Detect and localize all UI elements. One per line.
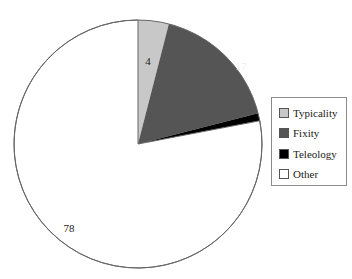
legend-item-fixity: Fixity xyxy=(279,126,319,140)
legend-swatch-teleology xyxy=(279,149,289,159)
legend-item-other: Other xyxy=(279,167,318,181)
legend-swatch-fixity xyxy=(279,128,289,138)
slice-label-other: 78 xyxy=(64,222,76,234)
legend-label: Teleology xyxy=(293,148,337,160)
legend-item-teleology: Teleology xyxy=(279,147,337,161)
legend-label: Fixity xyxy=(293,127,319,139)
slice-label-typicality: 4 xyxy=(145,55,151,67)
legend-swatch-other xyxy=(279,169,289,179)
legend-label: Other xyxy=(293,168,318,180)
slice-label-fixity: 17 xyxy=(236,60,248,72)
legend-item-typicality: Typicality xyxy=(279,106,337,120)
chart-legend: Typicality Fixity Teleology Other xyxy=(271,97,347,186)
legend-swatch-typicality xyxy=(279,108,289,118)
legend-label: Typicality xyxy=(293,107,337,119)
